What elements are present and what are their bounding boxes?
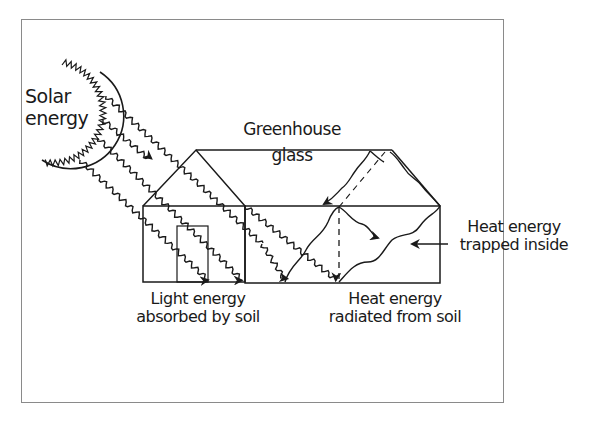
glass-label-line1: Greenhouse bbox=[232, 120, 352, 140]
light-ray bbox=[261, 244, 287, 279]
heat-wave-roof bbox=[390, 152, 440, 206]
heat-trapped-label: Heat energy trapped inside bbox=[450, 218, 578, 255]
solar-energy-label: Solar energy bbox=[25, 86, 88, 130]
solar-label-line2: energy bbox=[25, 108, 88, 130]
heat-label-line2: radiated from soil bbox=[310, 308, 480, 326]
heat-wave-down-right bbox=[339, 207, 378, 238]
greenhouse-glass-label: Greenhouse glass bbox=[232, 120, 352, 165]
light-label-line2: absorbed by soil bbox=[128, 308, 268, 326]
light-ray bbox=[98, 138, 242, 280]
light-ray bbox=[106, 96, 263, 243]
greenhouse-diagram bbox=[0, 0, 601, 426]
light-absorbed-label: Light energy absorbed by soil bbox=[128, 290, 268, 327]
greenhouse-structure bbox=[143, 150, 440, 283]
trapped-label-line1: Heat energy bbox=[450, 218, 578, 236]
trapped-label-line2: trapped inside bbox=[450, 236, 578, 254]
light-ray bbox=[80, 160, 208, 281]
greenhouse-side-wall bbox=[245, 206, 440, 283]
solar-label-line1: Solar bbox=[25, 86, 88, 108]
diagram-canvas: Solar energy Greenhouse glass Heat energ… bbox=[0, 0, 601, 426]
heat-wave-up-left bbox=[285, 207, 339, 282]
heat-label-line1: Heat energy bbox=[310, 290, 480, 308]
heat-wave-arrows bbox=[285, 151, 440, 282]
glass-label-line2: glass bbox=[232, 146, 352, 166]
heat-radiated-label: Heat energy radiated from soil bbox=[310, 290, 480, 327]
light-label-line1: Light energy bbox=[128, 290, 268, 308]
